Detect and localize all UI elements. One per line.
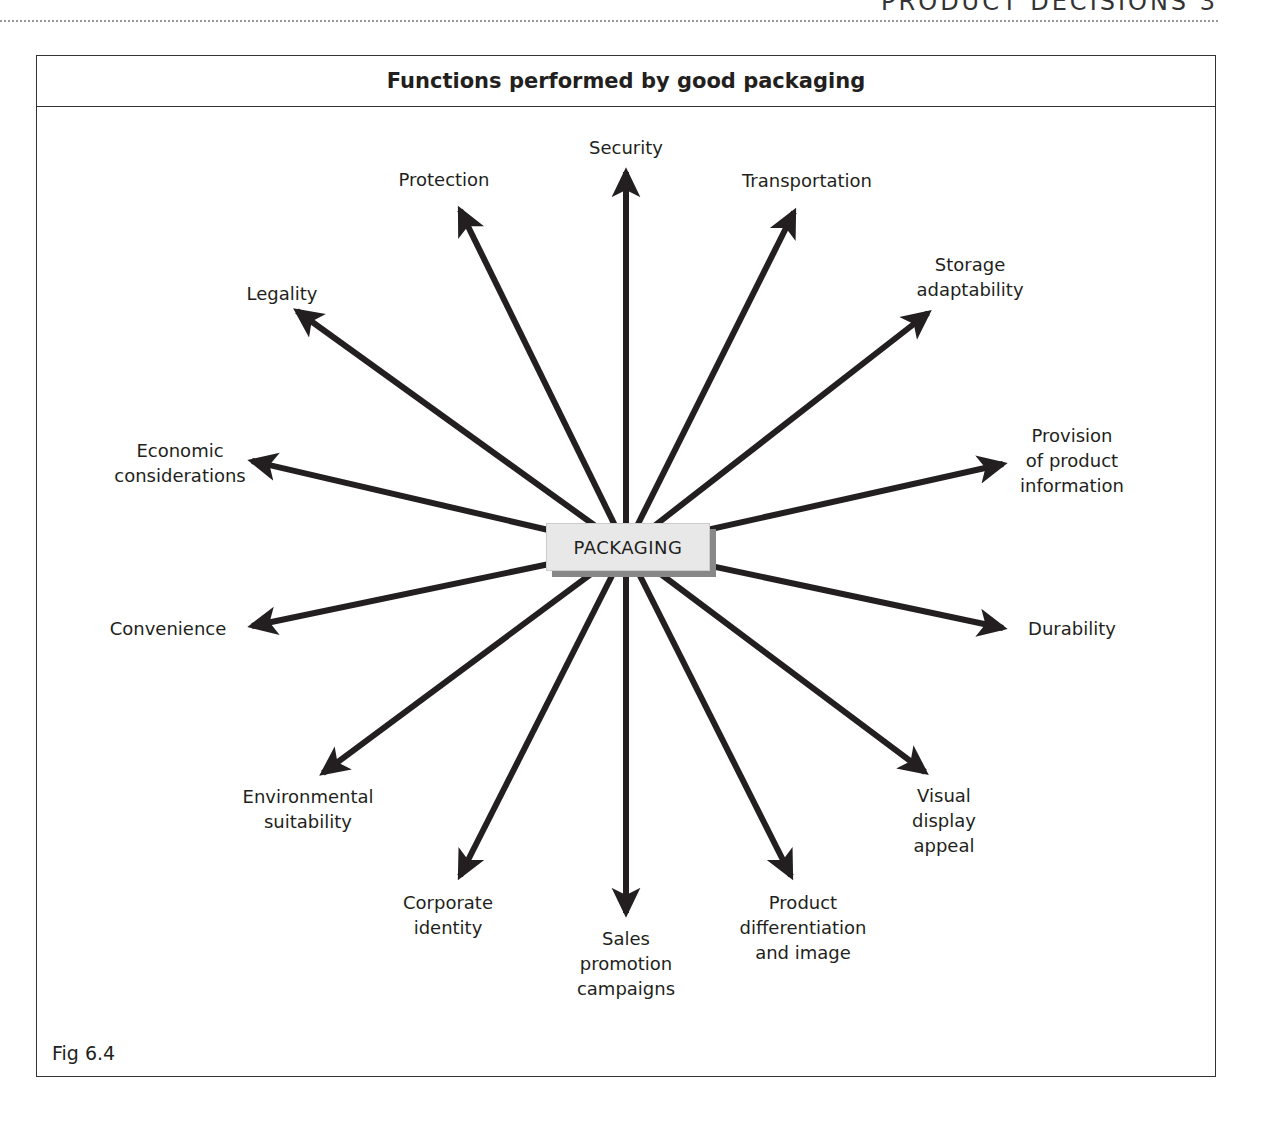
- label-product-differentiation-and-image: Product differentiation and image: [740, 890, 867, 965]
- label-environmental-suitability: Environmental suitability: [243, 784, 374, 834]
- label-storage-adaptability: Storage adaptability: [916, 252, 1023, 302]
- label-durability: Durability: [1028, 616, 1116, 641]
- label-economic-considerations: Economic considerations: [114, 438, 245, 488]
- label-sales-promotion-campaigns: Sales promotion campaigns: [577, 926, 675, 1001]
- label-provision-of-product-information: Provision of product information: [1020, 423, 1124, 498]
- arrow-transportation: [626, 212, 794, 548]
- arrow-corporate: [460, 548, 626, 876]
- figure-caption: Fig 6.4: [52, 1042, 115, 1064]
- arrow-protection: [460, 210, 626, 548]
- arrow-differentiation: [626, 548, 791, 876]
- label-protection: Protection: [398, 167, 489, 192]
- label-security: Security: [589, 135, 663, 160]
- packaging-center-box: PACKAGING: [546, 523, 710, 571]
- label-corporate-identity: Corporate identity: [403, 890, 493, 940]
- label-legality: Legality: [247, 281, 318, 306]
- label-convenience: Convenience: [110, 616, 227, 641]
- label-transportation: Transportation: [742, 168, 872, 193]
- label-visual-display-appeal: Visual display appeal: [912, 783, 976, 858]
